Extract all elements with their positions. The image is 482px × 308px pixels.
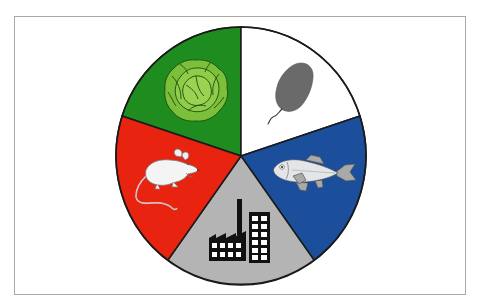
cabbage-icon [165, 60, 228, 121]
pie-wheel [0, 0, 482, 308]
